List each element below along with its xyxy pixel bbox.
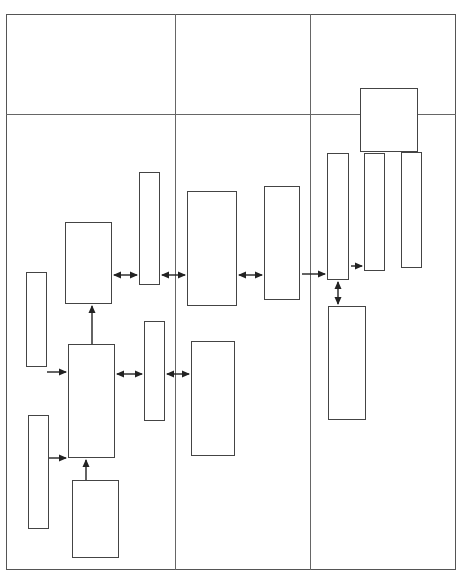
- connector-arrows: [0, 0, 462, 586]
- figure-stage: [0, 0, 462, 586]
